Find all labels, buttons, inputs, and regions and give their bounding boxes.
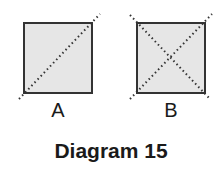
label-a: A	[38, 99, 78, 122]
figure-a	[19, 14, 100, 99]
figure-b	[130, 14, 212, 99]
label-b: B	[151, 99, 191, 122]
diagram-title: Diagram 15	[0, 139, 222, 163]
